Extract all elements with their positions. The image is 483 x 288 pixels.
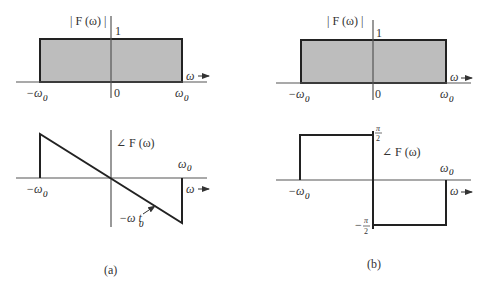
x-axis-label: ω [186,69,194,83]
right-cutoff-label: ω [440,161,448,175]
left-cutoff-label: −ω [26,86,43,100]
origin-label: 0 [375,87,381,101]
right-cutoff-sub: 0 [449,167,454,177]
left-cutoff-label: −ω [26,182,43,196]
left-cutoff-sub: 0 [305,94,310,104]
panel-a-magnitude-plot: | F (ω) | 1 0 ω −ω 0 ω 0 [16,14,209,103]
panel-a-phase-plot: ∠ F (ω) ω 0 ω −ω 0 −ω t 0 [16,130,209,229]
level-label: 1 [115,24,121,38]
top-level-num: π [376,124,381,133]
phase-ylabel: ∠ F (ω) [382,145,421,159]
panel-b-phase-plot: π 2 ∠ F (ω) ω 0 ω −ω 0 − π 2 [276,124,472,236]
origin-label: 0 [114,86,120,100]
right-cutoff-label: ω [440,87,448,101]
left-cutoff-sub: 0 [43,93,48,103]
bottom-level-den: 2 [364,227,368,236]
right-cutoff-sub: 0 [187,163,192,173]
right-cutoff-sub: 0 [184,93,189,103]
left-cutoff-sub: 0 [305,191,310,201]
figure: | F (ω) | 1 0 ω −ω 0 ω 0 ∠ F (ω) ω 0 ω −… [0,0,483,288]
bottom-level-num: π [364,216,369,225]
bottom-level-sign: − [355,218,362,232]
slope-sub: 0 [139,219,144,229]
x-axis-label: ω [450,70,458,84]
right-cutoff-label: ω [175,86,183,100]
right-cutoff-label: ω [178,157,186,171]
left-cutoff-label: −ω [288,87,305,101]
x-axis-label: ω [186,182,194,196]
phase-negative-segment [373,180,446,225]
top-level-den: 2 [376,134,380,143]
magnitude-ylabel: | F (ω) | [327,14,363,28]
magnitude-ylabel: | F (ω) | [70,14,106,28]
panel-b-magnitude-plot: | F (ω) | 1 0 ω −ω 0 ω 0 [276,14,472,104]
left-cutoff-label: −ω [288,184,305,198]
phase-positive-segment [300,135,373,180]
level-label: 1 [376,26,382,40]
right-cutoff-sub: 0 [449,94,454,104]
panel-a-caption: (a) [104,263,117,277]
pointer-arrow-icon [143,206,155,214]
phase-ylabel: ∠ F (ω) [116,136,155,150]
left-cutoff-sub: 0 [43,189,48,199]
panel-b-caption: (b) [367,257,381,271]
x-axis-label: ω [450,184,458,198]
